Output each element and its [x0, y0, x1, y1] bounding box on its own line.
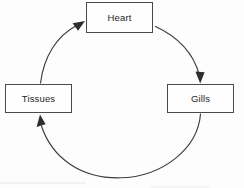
node-tissues[interactable]: Tissues — [5, 84, 72, 113]
node-heart[interactable]: Heart — [86, 2, 153, 33]
node-gills-label: Gills — [191, 94, 210, 104]
node-heart-label: Heart — [108, 13, 132, 23]
arrowhead-into-heart — [73, 21, 85, 31]
edge-heart-to-gills — [156, 27, 200, 75]
edge-gills-to-tissues — [42, 114, 201, 178]
node-tissues-label: Tissues — [22, 94, 55, 104]
diagram-canvas: Heart Gills Tissues — [0, 0, 244, 188]
arrowhead-into-gills — [195, 72, 204, 84]
node-gills[interactable]: Gills — [167, 84, 234, 113]
edge-tissues-to-heart — [41, 26, 77, 84]
arrowhead-into-tissues — [37, 115, 46, 127]
